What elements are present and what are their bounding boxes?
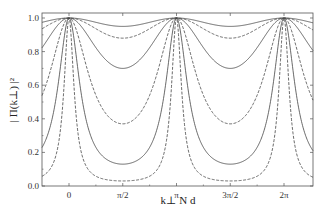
curve-curve-6 (42, 18, 313, 181)
y-tick-label: 1.0 (28, 13, 40, 23)
y-tick-label: 0.2 (28, 147, 39, 157)
plot-border (42, 13, 313, 186)
curve-curve-5 (42, 18, 313, 164)
x-tick-label: π/2 (117, 190, 129, 200)
y-tick-label: 0.4 (28, 114, 40, 124)
x-tick-label: 3π/2 (222, 190, 238, 200)
curve-curve-4 (42, 18, 313, 124)
axis-ticks: 0π/2π3π/22π0.00.20.40.60.81.0 (28, 13, 313, 200)
x-axis-label: k⊥ N d (161, 194, 196, 206)
x-tick-label: 2π (279, 190, 289, 200)
y-tick-label: 0.8 (28, 47, 40, 57)
y-tick-label: 0.6 (28, 80, 40, 90)
plot-frame (42, 13, 313, 186)
x-tick-label: 0 (67, 190, 72, 200)
chart: 0π/2π3π/22π0.00.20.40.60.81.0 k⊥ N d | Π… (0, 0, 324, 221)
curves (42, 18, 313, 181)
y-axis-label: | Π(k⊥) |² (7, 77, 20, 122)
y-tick-label: 0.0 (28, 181, 40, 191)
